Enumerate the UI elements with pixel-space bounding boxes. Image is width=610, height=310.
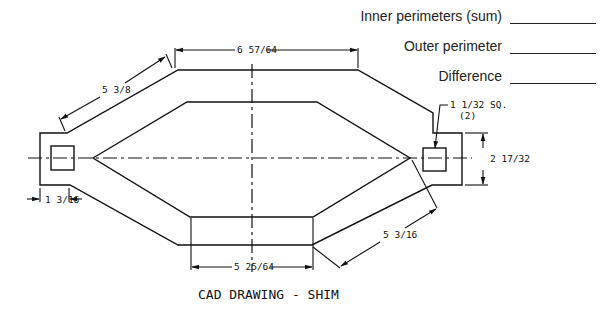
dim-lower-right-slope: 5 3/16 bbox=[383, 229, 418, 240]
dim-upper-left-slope: 5 3/8 bbox=[102, 84, 131, 95]
cad-drawing: 6 57/64 5 3/8 1 3/16 2 17/32 1 1/32 SQ. … bbox=[0, 0, 610, 310]
dim-tab-width: 1 3/16 bbox=[45, 194, 80, 205]
drawing-title: CAD DRAWING - SHIM bbox=[198, 287, 339, 302]
dim-square-count: (2) bbox=[459, 110, 476, 121]
dim-bottom-width: 5 25/64 bbox=[234, 261, 274, 272]
right-square bbox=[423, 148, 446, 171]
dim-square-callout: 1 1/32 SQ. bbox=[450, 99, 507, 110]
dim-tab-height: 2 17/32 bbox=[490, 153, 530, 164]
dim-top-width: 6 57/64 bbox=[237, 44, 277, 55]
